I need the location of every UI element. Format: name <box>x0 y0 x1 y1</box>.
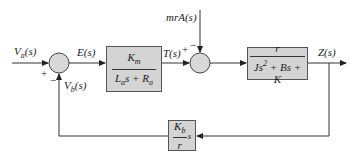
plant-denominator: Js2 + Bs + K <box>250 56 304 85</box>
feedback-s-term: s <box>188 131 192 141</box>
feedback-transfer-block: Kb r s <box>168 120 196 151</box>
backemf-signal-label: Vb(s) <box>64 80 86 94</box>
sum1-minus-sign: − <box>50 75 56 86</box>
sum2-plus-sign: + <box>182 44 188 55</box>
motor-denominator: Las + Ra <box>112 69 155 87</box>
feedback-numerator: Kb <box>174 120 185 136</box>
motor-transfer-block: Km Las + Ra <box>106 46 162 92</box>
output-signal-label: Z(s) <box>318 47 336 58</box>
input-signal-label: Va(s) <box>14 46 36 60</box>
sum2-minus-sign: − <box>190 40 196 51</box>
sum1-plus-sign: + <box>41 68 47 79</box>
motor-numerator: Km <box>127 51 140 68</box>
plant-numerator: r <box>275 42 279 56</box>
plant-transfer-block: r Js2 + Bs + K <box>247 47 308 80</box>
feedback-denominator: r <box>173 137 187 151</box>
torque-signal-label: T(s) <box>163 48 181 59</box>
disturbance-signal-label: mrA(s) <box>166 12 197 23</box>
error-signal-label: E(s) <box>77 47 95 58</box>
